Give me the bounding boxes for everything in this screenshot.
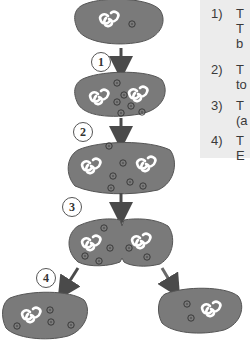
cell-step-3: [69, 219, 173, 266]
step-text: T E: [236, 133, 245, 163]
cell-step-2: [68, 143, 174, 194]
step-number: 2): [211, 62, 223, 77]
daughter-cell-right: [158, 288, 241, 333]
step-text: T (a: [236, 98, 248, 128]
step-text: T to: [236, 62, 247, 92]
cell-initial: [75, 0, 163, 44]
steps-description-panel: 1) T T b 2) T to 3) T (a 4) T E: [200, 0, 250, 158]
step-label-1: 1: [91, 52, 111, 72]
step-number: 1): [211, 6, 223, 21]
step-label-2: 2: [73, 122, 93, 142]
step-number: 3): [211, 98, 223, 113]
binary-fission-diagram: 1 2 3 4 1) T T b 2) T to 3) T (a 4) T E: [0, 0, 250, 340]
step-number: 4): [211, 133, 223, 148]
daughter-cell-left: [3, 292, 88, 339]
step-label-4: 4: [36, 268, 56, 288]
step-label-3: 3: [62, 197, 82, 217]
cell-step-1: [75, 72, 166, 116]
step-text: T T b: [236, 6, 244, 51]
